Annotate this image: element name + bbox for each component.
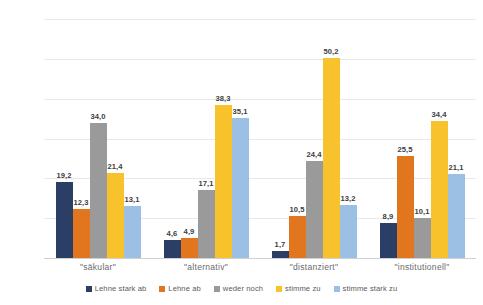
legend-label: Lehne stark ab <box>95 284 147 293</box>
bar[interactable] <box>289 216 306 258</box>
bar-value-label: 8,9 <box>383 212 394 221</box>
bar-value-label: 38,3 <box>215 94 230 103</box>
bar-value-label: 17,1 <box>198 179 213 188</box>
bar-value-label: 25,5 <box>397 145 412 154</box>
bar-group: 1,710,524,450,213,2"distanziert" <box>260 19 368 258</box>
bar-value-label: 10,5 <box>289 205 304 214</box>
legend-item[interactable]: stimme zu <box>276 284 321 293</box>
legend-item[interactable]: weder noch <box>214 284 263 293</box>
bar-value-label: 34,4 <box>431 110 446 119</box>
legend-label: stimme stark zu <box>343 284 398 293</box>
bar-value-label: 4,9 <box>184 227 195 236</box>
bar-value-label: 12,3 <box>73 198 88 207</box>
bar[interactable] <box>124 206 141 258</box>
legend-label: weder noch <box>223 284 263 293</box>
bar-value-label: 13,1 <box>124 195 139 204</box>
bar[interactable] <box>198 190 215 258</box>
bar[interactable] <box>215 105 232 258</box>
bar[interactable] <box>232 118 249 258</box>
bar-value-label: 21,1 <box>448 163 463 172</box>
bar[interactable] <box>323 58 340 258</box>
bar[interactable] <box>448 174 465 258</box>
bar[interactable] <box>397 156 414 258</box>
plot-area: 010203040506019,212,334,021,413,1"säkula… <box>44 19 476 258</box>
bar[interactable] <box>90 123 107 258</box>
bar[interactable] <box>431 121 448 258</box>
legend-item[interactable]: Lehne ab <box>159 284 200 293</box>
bar-value-label: 35,1 <box>232 107 247 116</box>
bar[interactable] <box>380 223 397 258</box>
legend-swatch-icon <box>276 286 282 292</box>
legend-swatch-icon <box>86 286 92 292</box>
bar-value-label: 24,4 <box>306 150 321 159</box>
bar[interactable] <box>107 173 124 258</box>
bar[interactable] <box>181 238 198 258</box>
bar-value-label: 21,4 <box>107 162 122 171</box>
bar-group: 8,925,510,134,421,1"institutionell" <box>368 19 476 258</box>
legend-swatch-icon <box>334 286 340 292</box>
bar[interactable] <box>56 182 73 258</box>
category-label: "distanziert" <box>260 262 368 272</box>
bar-value-label: 19,2 <box>56 171 71 180</box>
legend-swatch-icon <box>159 286 165 292</box>
bar-chart: Prozent 010203040506019,212,334,021,413,… <box>0 0 483 305</box>
bar-value-label: 10,1 <box>414 207 429 216</box>
legend-label: Lehne ab <box>168 284 200 293</box>
bar-value-label: 13,2 <box>340 194 355 203</box>
legend-swatch-icon <box>214 286 220 292</box>
legend-label: stimme zu <box>285 284 321 293</box>
category-label: "institutionell" <box>368 262 476 272</box>
bar-value-label: 50,2 <box>323 47 338 56</box>
category-label: "alternativ" <box>152 262 260 272</box>
bar[interactable] <box>340 205 357 258</box>
bar[interactable] <box>414 218 431 258</box>
legend-item[interactable]: Lehne stark ab <box>86 284 147 293</box>
bar-value-label: 34,0 <box>90 112 105 121</box>
category-label: "säkular" <box>44 262 152 272</box>
legend-item[interactable]: stimme stark zu <box>334 284 398 293</box>
bar[interactable] <box>272 251 289 258</box>
bar[interactable] <box>306 161 323 258</box>
bar-group: 4,64,917,138,335,1"alternativ" <box>152 19 260 258</box>
bar-group: 19,212,334,021,413,1"säkular" <box>44 19 152 258</box>
gridline <box>44 258 476 259</box>
bar[interactable] <box>73 209 90 258</box>
bar-value-label: 4,6 <box>167 229 178 238</box>
bar-value-label: 1,7 <box>275 240 286 249</box>
bar[interactable] <box>164 240 181 258</box>
y-axis-title: Prozent <box>0 101 1 128</box>
chart-legend: Lehne stark abLehne abweder nochstimme z… <box>0 284 483 293</box>
